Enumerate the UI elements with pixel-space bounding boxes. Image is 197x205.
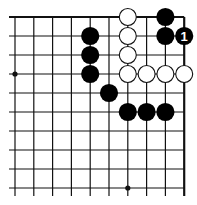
white-stone [119,66,136,83]
white-stone-icon [138,66,155,83]
white-stone-icon [176,66,193,83]
black-stone [156,103,174,121]
black-stone-icon [81,65,99,83]
black-stone [156,27,174,45]
grid-lines [9,17,184,196]
black-stone [100,84,118,102]
black-stone-icon [138,103,156,121]
stones: 1 [81,8,193,121]
black-stone-icon [156,27,174,45]
white-stone [119,28,136,45]
white-stone [119,47,136,64]
white-stone-icon [119,47,136,64]
star-point [125,185,130,190]
white-stone-icon [119,9,136,26]
white-stone-icon [157,66,174,83]
white-stone-icon [119,66,136,83]
black-stone-icon [119,103,137,121]
black-stone [119,103,137,121]
move-number-label: 1 [181,29,188,44]
white-stone [157,66,174,83]
star-point [12,71,17,76]
black-stone-icon [156,103,174,121]
black-stone-icon [81,27,99,45]
black-stone [81,65,99,83]
black-stone [138,103,156,121]
black-stone-icon [81,46,99,64]
white-stone-icon [119,28,136,45]
black-stone-icon [100,84,118,102]
white-stone [138,66,155,83]
black-stone: 1 [175,27,193,45]
white-stone [176,66,193,83]
go-board-diagram: 1 [0,0,197,205]
black-stone [156,8,174,26]
black-stone [81,46,99,64]
black-stone-icon [156,8,174,26]
white-stone [119,9,136,26]
black-stone [81,27,99,45]
